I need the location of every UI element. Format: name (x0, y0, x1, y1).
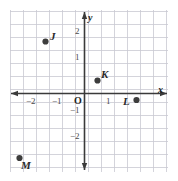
point-label-K: K (101, 69, 108, 80)
x-tick-label-1: 1 (106, 97, 111, 106)
point-label-L: L (123, 96, 130, 107)
minor-gridlines (10, 10, 168, 172)
point-J (42, 38, 48, 44)
plot-area: J K L M −2 −1 1 2 1 −1 −2 O x y (10, 10, 168, 172)
y-tick-label-neg2: −2 (70, 132, 80, 141)
x-axis-name: x (158, 85, 163, 95)
coordinate-plane-figure: J K L M −2 −1 1 2 1 −1 −2 O x y (0, 0, 178, 181)
y-tick-label-neg1: −1 (70, 106, 80, 115)
graph-svg (10, 10, 168, 172)
y-axis (82, 12, 87, 170)
x-tick-label-neg2: −2 (26, 97, 36, 106)
y-axis-name: y (88, 13, 92, 23)
point-label-M: M (21, 160, 31, 171)
y-tick-label-2: 2 (75, 27, 80, 36)
point-K (94, 77, 100, 83)
origin-label: O (74, 96, 82, 106)
point-L (133, 97, 139, 103)
point-label-J: J (50, 31, 56, 42)
y-tick-label-1: 1 (75, 53, 80, 62)
x-tick-label-neg1: −1 (52, 97, 62, 106)
